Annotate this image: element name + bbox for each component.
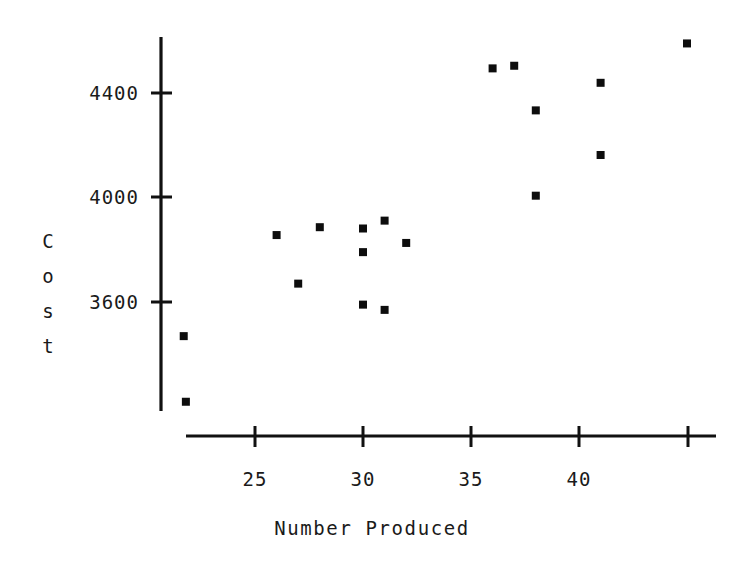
y-axis-title-char-3: t	[42, 335, 53, 357]
y-tick-label-4000: 4000	[89, 186, 139, 208]
y-axis-title-char-1: o	[42, 265, 53, 287]
y-tick-label-3600: 3600	[89, 291, 139, 313]
data-point	[683, 39, 691, 47]
scatter-plot-figure: 4400 4000 3600 25 30 35 40 Number Produc…	[0, 0, 732, 563]
x-tick-label-40: 40	[567, 468, 592, 490]
data-point	[381, 306, 389, 314]
data-point	[294, 280, 302, 288]
data-point	[597, 151, 605, 159]
data-point	[316, 223, 324, 231]
data-point	[182, 398, 190, 406]
x-tick-label-35: 35	[459, 468, 484, 490]
x-axis-title: Number Produced	[274, 517, 470, 539]
data-point	[532, 106, 540, 114]
data-point	[510, 62, 518, 70]
data-point	[359, 301, 367, 309]
data-point	[402, 239, 410, 247]
data-point	[273, 231, 281, 239]
data-point	[180, 332, 188, 340]
x-tick-label-30: 30	[351, 468, 376, 490]
data-point	[359, 248, 367, 256]
data-point	[381, 217, 389, 225]
plot-canvas: 4400 4000 3600 25 30 35 40 Number Produc…	[0, 0, 732, 563]
data-point	[359, 225, 367, 233]
data-point	[489, 64, 497, 72]
data-point	[532, 192, 540, 200]
data-point-layer	[180, 39, 691, 405]
data-point	[597, 79, 605, 87]
y-axis-title: C o s t	[42, 230, 53, 357]
y-axis-title-char-0: C	[42, 230, 53, 252]
y-tick-label-4400: 4400	[89, 82, 139, 104]
x-tick-label-25: 25	[243, 468, 268, 490]
y-axis-title-char-2: s	[42, 300, 53, 322]
